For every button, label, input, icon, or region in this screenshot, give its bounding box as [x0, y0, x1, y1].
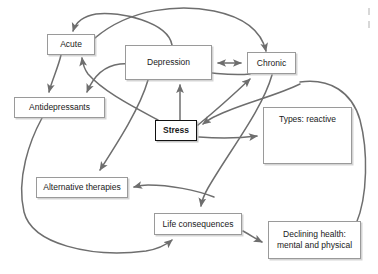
node-antidepressants[interactable]: Antidepressants	[14, 97, 105, 118]
node-life-consequences[interactable]: Life consequences	[154, 213, 242, 235]
edge-life-consequences-to-declining-health	[243, 231, 262, 242]
edge-stress-to-types	[199, 136, 257, 138]
margin-mark-lower	[368, 21, 370, 28]
node-declining-health-label: Declining health: mental and physical	[277, 229, 352, 251]
node-antidepressants-label: Antidepressants	[29, 102, 90, 113]
edge-depression-to-alternative-therapies	[100, 80, 148, 170]
node-depression-label: Depression	[147, 57, 190, 68]
node-types-reactive-label: Types: reactive	[279, 114, 336, 125]
node-stress-label: Stress	[163, 125, 189, 136]
node-stress[interactable]: Stress	[155, 120, 197, 141]
node-types-reactive[interactable]: Types: reactive	[263, 107, 352, 164]
node-chronic-label: Chronic	[257, 58, 286, 69]
edge-declining-health-to-alternative-therapies	[134, 185, 214, 197]
node-declining-health[interactable]: Declining health: mental and physical	[268, 221, 361, 259]
node-acute[interactable]: Acute	[47, 34, 95, 55]
node-depression[interactable]: Depression	[125, 45, 212, 80]
edge-chronic-to-life-consequences	[201, 75, 272, 206]
edge-acute-to-antidepressants	[49, 55, 61, 92]
node-life-consequences-label: Life consequences	[163, 219, 234, 230]
node-acute-label: Acute	[60, 39, 82, 50]
node-chronic[interactable]: Chronic	[247, 52, 296, 74]
node-alternative-therapies[interactable]: Alternative therapies	[36, 177, 128, 198]
margin-mark-upper	[368, 8, 370, 15]
edge-stress-to-chronic	[198, 79, 250, 125]
diagram-canvas: Acute Depression Chronic Antidepressants…	[0, 0, 378, 274]
node-alternative-therapies-label: Alternative therapies	[43, 182, 121, 193]
